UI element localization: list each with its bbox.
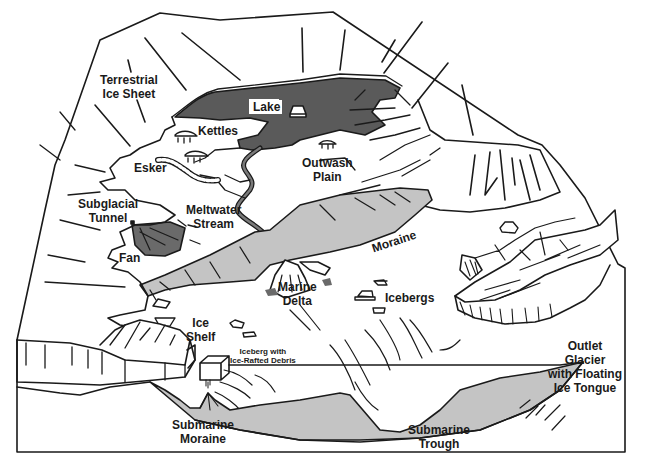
label-esker: Esker (134, 161, 167, 175)
label-outwash-plain: Outwash Plain (302, 156, 353, 184)
label-iceberg-ice-rafted-debris: Iceberg with Ice-Rafted Debris (230, 347, 296, 365)
label-subglacial-tunnel: Subglacial Tunnel (78, 197, 138, 225)
label-lake: Lake (251, 100, 282, 114)
label-submarine-trough: Submarine Trough (408, 423, 470, 451)
glacial-landforms-diagram (0, 0, 645, 469)
lake-iceberg-icon (290, 106, 306, 117)
label-submarine-moraine: Submarine Moraine (172, 418, 234, 446)
label-meltwater-stream: Meltwater Stream (186, 203, 241, 231)
label-outlet-glacier: Outlet Glacier with Floating Ice Tongue (548, 339, 622, 395)
label-ice-shelf: Ice Shelf (186, 316, 215, 344)
label-icebergs: Icebergs (385, 291, 434, 305)
label-kettles: Kettles (198, 124, 238, 138)
label-marine-delta: Marine Delta (278, 280, 317, 308)
label-fan: Fan (119, 251, 140, 265)
label-terrestrial-ice-sheet: Terrestrial Ice Sheet (100, 73, 158, 101)
